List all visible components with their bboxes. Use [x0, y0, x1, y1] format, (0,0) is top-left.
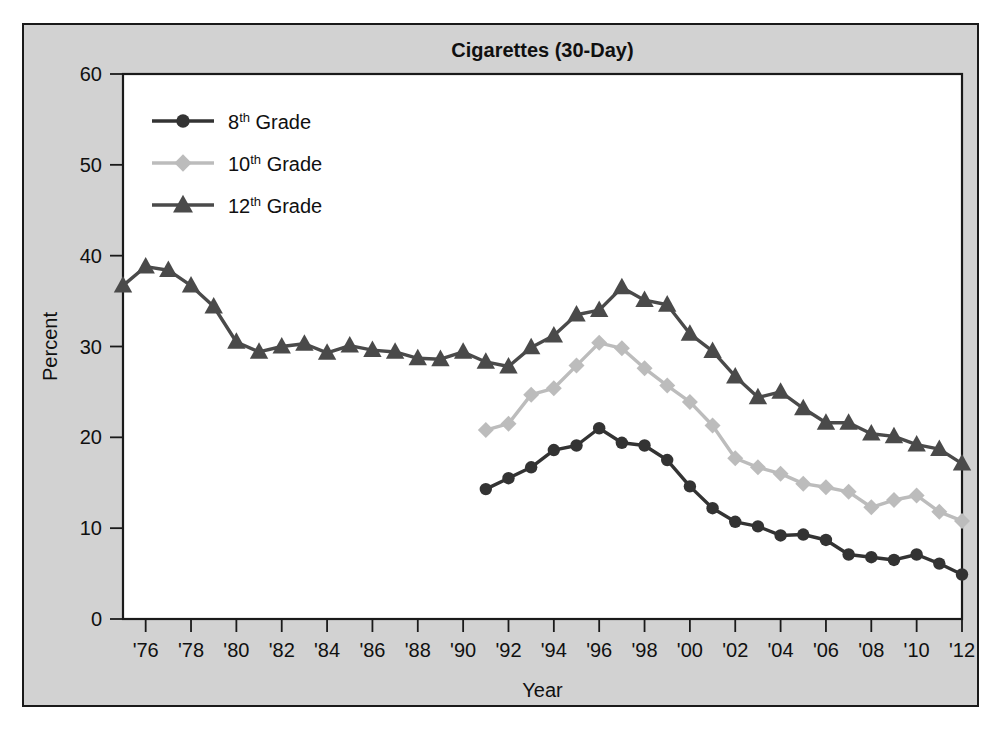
y-tick-label: 20 — [80, 426, 102, 448]
x-tick-label: '78 — [178, 639, 204, 661]
x-tick-label: '80 — [223, 639, 249, 661]
x-tick-label: '94 — [541, 639, 567, 661]
data-marker-circle — [638, 439, 650, 451]
data-marker-circle — [593, 422, 605, 434]
x-tick-label: '98 — [632, 639, 658, 661]
x-tick-label: '06 — [813, 639, 839, 661]
data-marker-circle — [706, 502, 718, 514]
x-tick-label: '02 — [722, 639, 748, 661]
data-marker-circle — [661, 454, 673, 466]
data-marker-circle — [910, 548, 922, 560]
y-tick-label: 0 — [91, 608, 102, 630]
data-marker-circle — [752, 520, 764, 532]
data-marker-circle — [684, 480, 696, 492]
y-tick-label: 50 — [80, 154, 102, 176]
x-tick-label: '12 — [949, 639, 975, 661]
x-tick-label: '10 — [904, 639, 930, 661]
x-tick-label: '84 — [314, 639, 340, 661]
data-marker-circle — [842, 548, 854, 560]
data-marker-circle — [888, 554, 900, 566]
y-axis-title: Percent — [39, 312, 61, 381]
x-tick-label: '04 — [768, 639, 794, 661]
data-marker-circle — [956, 568, 968, 580]
x-tick-label: '08 — [858, 639, 884, 661]
y-tick-label: 60 — [80, 63, 102, 85]
data-marker-circle — [548, 444, 560, 456]
legend-label: 10th Grade — [228, 152, 322, 176]
x-tick-label: '88 — [405, 639, 431, 661]
data-marker-circle — [480, 483, 492, 495]
line-chart: Cigarettes (30-Day)0102030405060'76'78'8… — [24, 25, 977, 705]
data-marker-circle — [820, 534, 832, 546]
x-axis-title: Year — [522, 679, 563, 701]
legend-label: 12th Grade — [228, 194, 322, 218]
y-tick-label: 10 — [80, 517, 102, 539]
chart-title: Cigarettes (30-Day) — [451, 39, 633, 61]
x-tick-label: '00 — [677, 639, 703, 661]
data-marker-circle — [502, 472, 514, 484]
data-marker-circle — [729, 516, 741, 528]
figure-root: Cigarettes (30-Day)0102030405060'76'78'8… — [0, 0, 1001, 732]
data-marker-circle — [933, 557, 945, 569]
x-tick-label: '82 — [269, 639, 295, 661]
x-tick-label: '76 — [133, 639, 159, 661]
data-marker-circle — [616, 437, 628, 449]
y-tick-label: 30 — [80, 336, 102, 358]
x-tick-label: '86 — [359, 639, 385, 661]
chart-frame: Cigarettes (30-Day)0102030405060'76'78'8… — [22, 23, 979, 707]
x-tick-label: '90 — [450, 639, 476, 661]
y-tick-label: 40 — [80, 245, 102, 267]
data-marker-circle — [570, 439, 582, 451]
data-marker-circle — [774, 529, 786, 541]
data-marker-circle — [525, 461, 537, 473]
data-marker-circle — [176, 114, 189, 127]
x-tick-label: '92 — [495, 639, 521, 661]
data-marker-circle — [865, 551, 877, 563]
data-marker-circle — [797, 528, 809, 540]
x-tick-label: '96 — [586, 639, 612, 661]
